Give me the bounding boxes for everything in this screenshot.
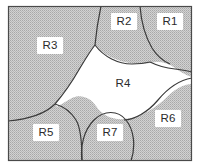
region-label-text-R2: R2 — [116, 15, 131, 27]
region-label-text-R1: R1 — [162, 15, 177, 27]
region-label-R4: R4 — [115, 77, 131, 89]
region-label-text-R3: R3 — [42, 39, 57, 51]
region-label-text-R5: R5 — [38, 126, 53, 138]
region-map-diagram: R1 R2 R3 R4 R5 R6 R7 — [0, 0, 200, 167]
region-label-R5: R5 — [33, 124, 59, 141]
region-label-text-R7: R7 — [102, 126, 117, 138]
region-label-R1: R1 — [157, 13, 183, 30]
region-label-text-R4: R4 — [115, 77, 131, 89]
figure-root: R1 R2 R3 R4 R5 R6 R7 — [0, 0, 200, 167]
region-label-R7: R7 — [97, 124, 123, 141]
region-label-R3: R3 — [37, 37, 63, 54]
region-label-text-R6: R6 — [160, 112, 175, 124]
region-label-R2: R2 — [111, 13, 137, 30]
region-label-R6: R6 — [155, 110, 181, 127]
